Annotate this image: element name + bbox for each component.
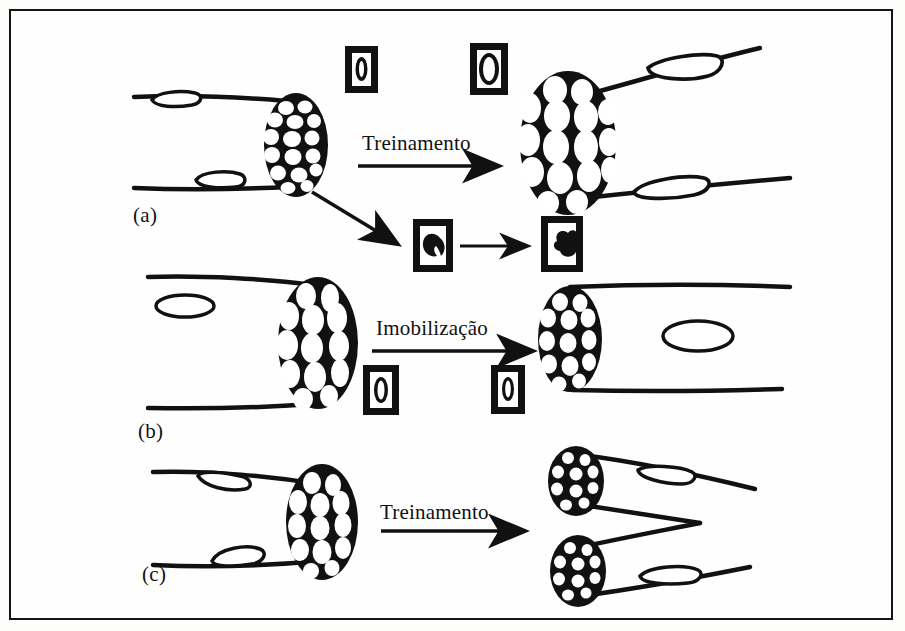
panel-c-group [153,446,755,607]
nucleus-oval [212,547,264,566]
nucleus-oval [198,472,250,490]
inset-box-fiber-reduced-b [491,365,525,414]
panel-label-a: (a) [133,203,157,228]
panel-c-left-muscle [153,464,358,580]
nucleus-oval [152,92,201,107]
inset-box-satellite-activated [541,216,583,272]
inset-box-satellite-quiescent [413,219,453,272]
inset-box-fiber-small [345,46,378,93]
arrow-satellite-branch [312,192,396,243]
nucleus-oval [663,321,733,351]
panel-b-right-muscle [538,285,790,392]
inset-box-fiber-normal-b [363,365,399,415]
panel-a-right-muscle [516,48,790,215]
process-label-treinamento-c: Treinamento [380,500,489,525]
nucleus-oval [648,55,722,79]
panel-c-right-muscle-upper [548,446,755,523]
panel-label-c: (c) [142,562,166,587]
panel-label-b: (b) [138,419,163,444]
nucleus-oval [156,295,214,317]
nucleus-oval [640,567,701,584]
panel-a-group [134,43,790,272]
figure-page: (a) (b) (c) Treinamento Imobilização Tre… [0,0,905,631]
process-label-imobilizacao-b: Imobilização [376,316,488,341]
panel-c-right-muscle-lower [550,523,750,607]
nucleus-oval [196,172,245,188]
nucleus-oval [634,177,709,199]
panel-a-left-muscle [134,92,328,197]
inset-box-fiber-large [470,43,508,95]
panel-b-left-muscle [148,276,358,410]
panel-b-group [148,276,790,415]
nucleus-oval [638,466,695,484]
process-label-treinamento-a: Treinamento [362,131,471,156]
